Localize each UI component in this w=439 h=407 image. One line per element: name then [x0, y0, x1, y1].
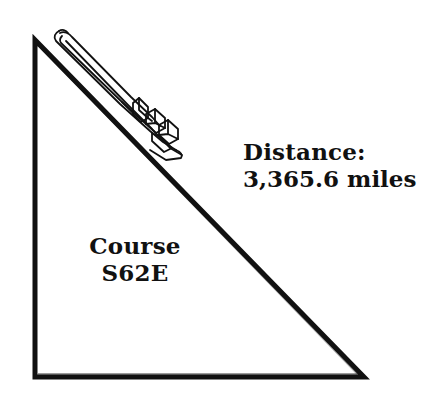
distance-label-title: Distance: [243, 138, 416, 165]
triangle-outline [35, 40, 364, 377]
course-diagram-figure: Distance: 3,365.6 miles Course S62E [0, 0, 439, 407]
ship-hull-lower-edge [66, 41, 182, 155]
distance-label-value: 3,365.6 miles [243, 165, 416, 192]
diagram-canvas [0, 0, 439, 407]
triangle-hypotenuse-inner-edge [37, 44, 357, 374]
ship-deck-seam-2 [148, 118, 152, 121]
course-label-value: S62E [88, 259, 182, 286]
distance-label: Distance: 3,365.6 miles [243, 138, 416, 192]
course-label-title: Course [88, 232, 182, 259]
course-triangle [35, 40, 364, 377]
course-label: Course S62E [88, 232, 182, 286]
ship-icon [55, 30, 182, 160]
